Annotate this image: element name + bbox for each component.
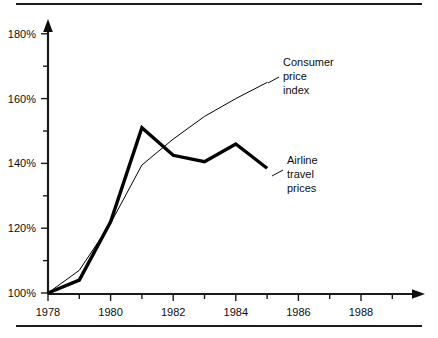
x-tick-label-1978: 1978	[36, 306, 60, 318]
x-tick-label-1988: 1988	[349, 306, 373, 318]
cpi-label-line-1: Consumer	[283, 56, 334, 68]
airline-label-line-3: prices	[287, 182, 317, 194]
chart-page: 180% 160% 140% 120% 100% 1978 1980 1982	[0, 0, 438, 338]
x-axis-tick-labels: 1978 1980 1982 1984 1986 1988	[36, 306, 373, 318]
y-tick-label-140: 140%	[8, 157, 36, 169]
cpi-label-line-2: price	[283, 70, 307, 82]
airline-label-line-2: travel	[287, 168, 314, 180]
x-tick-label-1984: 1984	[224, 306, 248, 318]
series-line-consumer-price-index	[48, 82, 267, 293]
y-tick-label-120: 120%	[8, 222, 36, 234]
line-chart: 180% 160% 140% 120% 100% 1978 1980 1982	[0, 0, 438, 338]
y-axis-tick-labels: 180% 160% 140% 120% 100%	[8, 28, 36, 299]
y-axis	[43, 19, 53, 294]
y-tick-label-180: 180%	[8, 28, 36, 40]
x-tick-label-1980: 1980	[98, 306, 122, 318]
cpi-leader-line	[268, 77, 279, 83]
airline-leader-line	[272, 170, 283, 176]
x-tick-label-1986: 1986	[286, 306, 310, 318]
y-tick-label-160: 160%	[8, 93, 36, 105]
airline-label-line-1: Airline	[287, 154, 318, 166]
x-tick-label-1982: 1982	[161, 306, 185, 318]
cpi-label-line-3: index	[283, 84, 310, 96]
airline-annotation-label: Airline travel prices	[287, 154, 318, 194]
cpi-annotation-label: Consumer price index	[283, 56, 334, 96]
y-tick-label-100: 100%	[8, 287, 36, 299]
